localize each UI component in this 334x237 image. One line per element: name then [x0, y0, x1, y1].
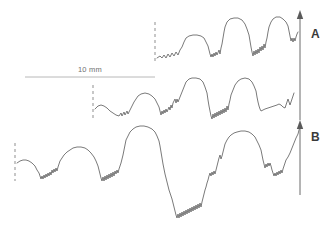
- panel-label-a: A: [311, 27, 320, 41]
- arrow-head-b-icon: [297, 120, 303, 129]
- panel-label-b: B: [311, 130, 320, 144]
- axis-arrow-a-group: [297, 10, 303, 120]
- scale-bar-label: 10 mm: [78, 65, 102, 74]
- trace-b: [17, 126, 300, 218]
- trace-a-upper: [157, 17, 298, 58]
- shell-growth-profile-figure: 10 mm A B: [0, 0, 334, 237]
- arrow-head-a-icon: [297, 10, 303, 19]
- trace-group: [17, 17, 300, 218]
- axis-arrow-b-group: [297, 120, 303, 195]
- profile-traces-canvas: [0, 0, 334, 237]
- trace-a-lower: [95, 78, 294, 119]
